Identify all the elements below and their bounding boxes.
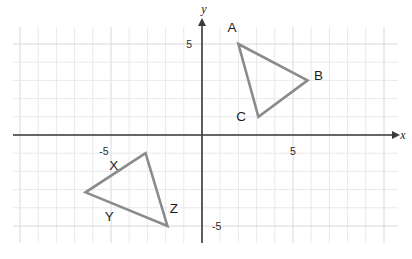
y-axis-arrow-icon [198,18,206,26]
vertex-label-x: X [109,158,118,173]
x-axis-arrow-icon [392,131,400,139]
tick-label-x-pos5: 5 [290,145,296,157]
vertex-labels: A B C X Y Z [105,20,323,224]
axes [13,18,400,243]
y-axis-label: y [200,2,207,16]
vertex-label-c: C [236,109,246,124]
coordinate-plane-figure: -5 5 5 -5 x y A B C X Y Z [0,0,412,259]
x-axis-label: x [399,128,406,142]
vertex-label-b: B [314,68,323,83]
tick-label-y-pos5: 5 [186,38,192,50]
vertex-label-z: Z [170,201,178,216]
tick-label-x-neg5: -5 [99,145,108,157]
vertex-label-a: A [228,20,237,35]
tick-label-y-neg5: -5 [212,220,221,232]
vertex-label-y: Y [105,209,114,224]
coordinate-plane-svg: -5 5 5 -5 x y A B C X Y Z [0,0,412,259]
